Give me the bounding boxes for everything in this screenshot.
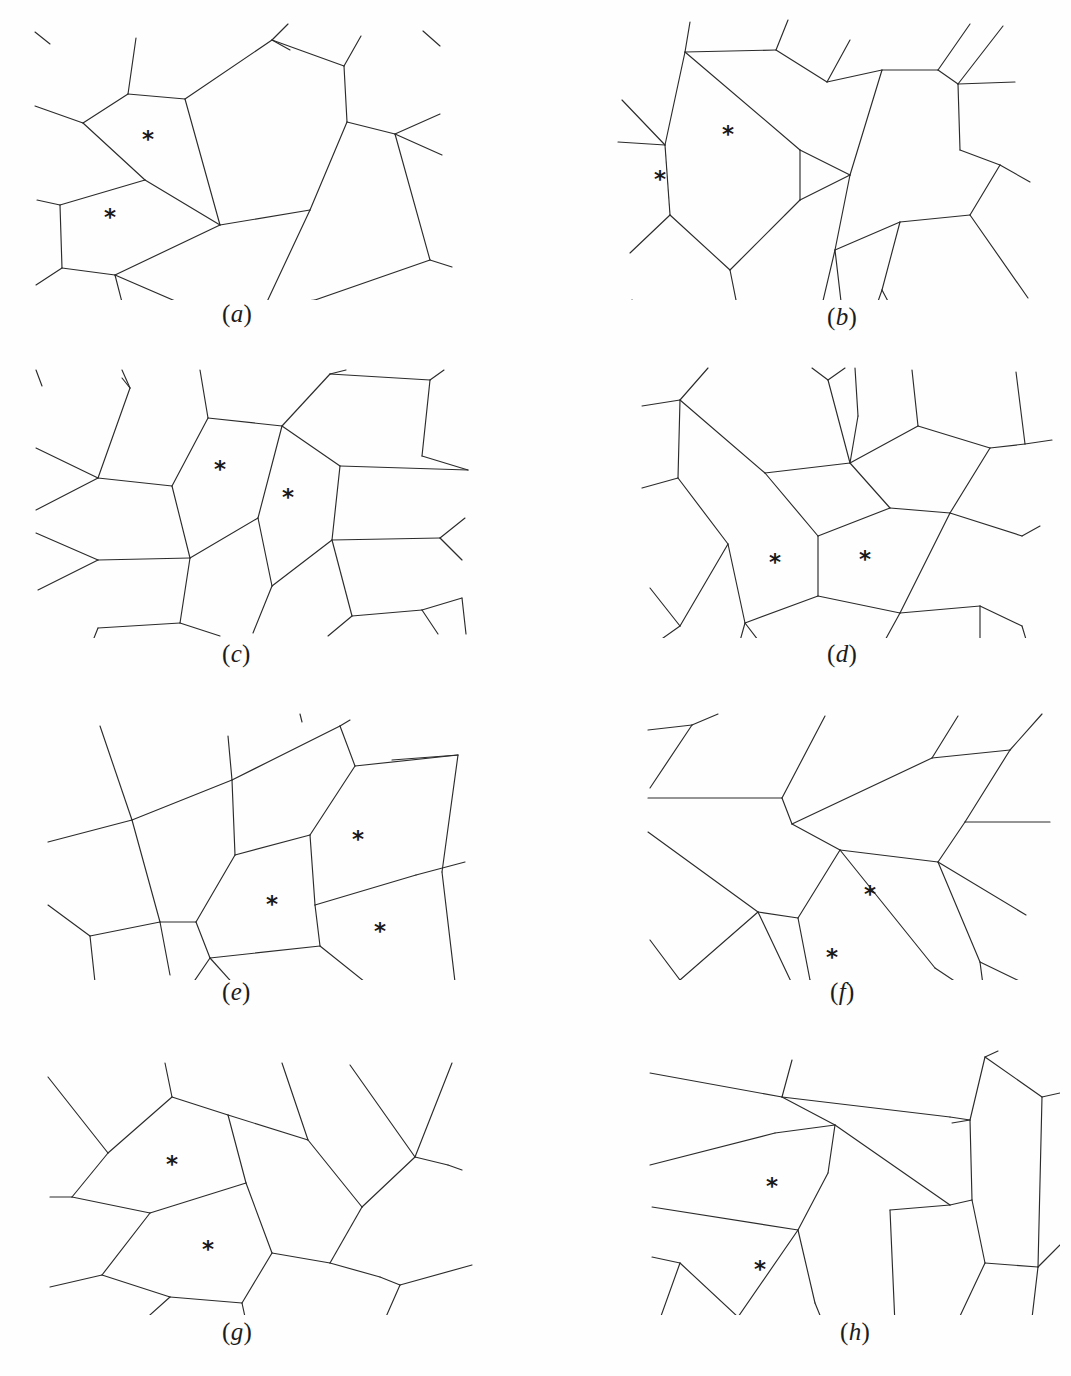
cell-boundary-edge (648, 832, 758, 912)
cell-boundary-edge (282, 426, 340, 466)
cell-boundary-edge (90, 922, 160, 936)
cell-boundary-edge (36, 268, 62, 285)
cell-boundary-edge (782, 798, 792, 824)
cell-boundary-edge (738, 623, 745, 638)
cell-boundary-edge (258, 518, 272, 586)
cell-boundary-edge (958, 84, 960, 150)
cell-boundary-edge (938, 862, 980, 962)
cell-boundary-edge (938, 822, 965, 862)
cell-boundary-edge (938, 862, 1026, 915)
cell-boundary-edge (650, 1133, 775, 1165)
cell-boundary-edge (1038, 1097, 1042, 1267)
cell-network-g: ** (10, 1035, 510, 1315)
cell-boundary-edge (882, 290, 890, 300)
asterisk-cell-marker: * (214, 456, 226, 482)
cell-boundary-edge (37, 200, 60, 205)
cell-boundary-edge (172, 486, 190, 558)
cell-boundary-edge (850, 463, 890, 508)
asterisk-cell-marker: * (826, 944, 838, 970)
asterisk-cell-marker: * (722, 121, 734, 147)
cell-network-b: ** (560, 10, 1060, 300)
cell-boundary-edge (680, 544, 728, 626)
cell-boundary-edge (798, 1173, 828, 1230)
cell-boundary-edge (36, 448, 98, 478)
marker-group: ** (104, 126, 154, 230)
cell-boundary-edge (172, 418, 208, 486)
cell-boundary-edge (900, 513, 950, 613)
cell-boundary-edge (242, 1303, 250, 1315)
cell-boundary-edge (392, 755, 458, 760)
cell-boundary-edge (680, 912, 758, 980)
cell-boundary-edge (395, 114, 440, 134)
cell-boundary-edge (745, 623, 768, 638)
cell-boundary-edge (94, 628, 98, 638)
cell-boundary-edge (990, 444, 1025, 448)
cell-boundary-edge (332, 466, 340, 540)
cell-boundary-edge (344, 36, 361, 66)
cell-boundary-edge (36, 478, 98, 510)
cell-boundary-edge (765, 473, 818, 536)
cell-boundary-edge (938, 70, 958, 84)
cell-boundary-edge (900, 215, 970, 222)
cell-boundary-edge (950, 448, 990, 513)
cell-boundary-edge (344, 66, 347, 122)
cell-boundary-edge (730, 200, 800, 270)
cell-boundary-edge (442, 755, 458, 872)
cell-boundary-edge (835, 1125, 950, 1205)
cell-boundary-edge (972, 1200, 985, 1263)
asterisk-cell-marker: * (352, 826, 364, 852)
cell-boundary-edge (758, 912, 798, 918)
cell-boundary-edge (48, 820, 132, 842)
cell-boundary-edge (738, 1230, 798, 1315)
cell-boundary-edge (932, 716, 958, 758)
cell-boundary-edge (900, 606, 980, 613)
cell-boundary-edge (958, 82, 1015, 84)
cell-boundary-edge (970, 215, 1028, 298)
cell-boundary-edge (728, 544, 745, 623)
cell-boundary-edge (282, 1063, 308, 1140)
asterisk-cell-marker: * (864, 881, 876, 907)
cell-network-h: ** (560, 1035, 1060, 1315)
panel-e: *** (10, 700, 510, 980)
cell-boundary-edge (102, 1275, 170, 1297)
cell-boundary-edge (678, 478, 728, 544)
cell-boundary-edge (985, 1057, 1042, 1097)
cell-boundary-edge (827, 70, 882, 82)
marker-group: ** (769, 546, 871, 575)
cell-boundary-edge (196, 855, 235, 922)
cell-boundary-edge (395, 134, 430, 260)
cell-boundary-edge (220, 210, 310, 225)
cell-boundary-edge (912, 370, 918, 426)
panel-c: ** (10, 358, 510, 638)
cell-boundary-edge (818, 596, 900, 613)
panel-label-f: (f) (830, 978, 855, 1006)
cell-boundary-edge (932, 750, 1010, 758)
asterisk-cell-marker: * (282, 484, 294, 510)
cell-boundary-edge (985, 1051, 998, 1057)
cell-boundary-edge (108, 1097, 172, 1153)
cell-boundary-edge (935, 968, 980, 980)
cell-boundary-edge (958, 26, 1003, 84)
cell-boundary-edge (800, 150, 850, 175)
cell-boundary-edge (98, 478, 172, 486)
cell-boundary-edge (98, 388, 130, 478)
panel-label-c: (c) (222, 640, 251, 668)
cell-boundary-edge (210, 946, 320, 958)
cell-boundary-edge (122, 1297, 170, 1315)
cell-boundary-edge (1025, 440, 1052, 444)
cell-boundary-edge (352, 610, 422, 616)
cell-boundary-edge (38, 560, 98, 590)
cell-boundary-edge (952, 1263, 985, 1315)
cell-boundary-edge (180, 623, 220, 636)
cell-boundary-edge (83, 123, 145, 180)
cell-boundary-edge (822, 250, 835, 300)
cell-boundary-edge (680, 1263, 738, 1315)
cell-boundary-edge (650, 725, 692, 788)
cell-boundary-edge (840, 850, 938, 862)
cell-boundary-group (48, 714, 465, 980)
cell-boundary-edge (950, 1200, 972, 1205)
cell-network-a: ** (10, 10, 510, 300)
panel-label-b: (b) (827, 303, 857, 331)
cell-boundary-edge (650, 1073, 782, 1097)
cell-boundary-edge (228, 736, 232, 780)
